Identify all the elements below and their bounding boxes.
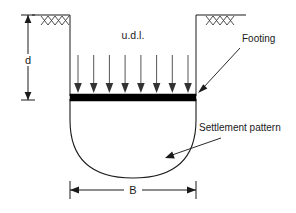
load-arrow [90, 55, 98, 93]
depth-dim-arrowhead-top [25, 15, 32, 23]
depth-dimension-group: d [21, 15, 35, 100]
ground-hatch-left-icon [41, 16, 69, 25]
load-arrow [184, 55, 192, 93]
footing-leader-arrowhead [198, 84, 207, 93]
width-dimension-group: B [70, 181, 196, 199]
footing-bar [70, 94, 196, 101]
settlement-label: Settlement pattern [199, 122, 281, 133]
load-arrow [106, 55, 114, 93]
load-arrow [169, 55, 177, 93]
settlement-leader-line [172, 138, 221, 155]
width-dim-arrowhead-right [187, 187, 196, 194]
footing-settlement-diagram: d u.d.l. [0, 0, 296, 213]
load-arrows-group [74, 55, 192, 93]
width-dim-arrowhead-left [70, 187, 79, 194]
depth-label: d [25, 54, 31, 66]
udl-label: u.d.l. [122, 29, 145, 41]
footing-callout-group: Footing [198, 33, 275, 93]
depth-dim-arrowhead-bottom [25, 92, 32, 100]
excavation-walls-group [70, 15, 196, 96]
load-arrow [121, 55, 129, 93]
width-label: B [129, 184, 136, 196]
load-arrow [74, 55, 82, 93]
ground-hatch-right-icon [206, 16, 234, 25]
settlement-pattern-curve [70, 99, 196, 178]
load-arrow [153, 55, 161, 93]
load-arrow [137, 55, 145, 93]
footing-label: Footing [242, 33, 275, 44]
footing-leader-line [203, 48, 240, 88]
settlement-callout-group: Settlement pattern [165, 122, 281, 159]
diagram-canvas: d u.d.l. [0, 0, 296, 213]
settlement-leader-arrowhead [165, 151, 175, 158]
